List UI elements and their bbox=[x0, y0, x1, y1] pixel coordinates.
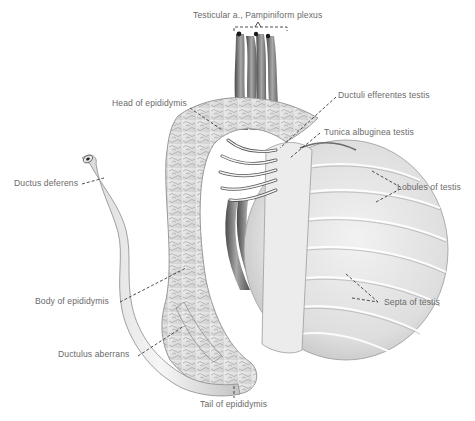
label-ductulus-aberrans: Ductulus aberrans bbox=[58, 349, 129, 359]
label-head-of-epididymis: Head of epididymis bbox=[112, 98, 187, 108]
label-tunica-albuginea: Tunica albuginea testis bbox=[324, 127, 414, 137]
testis-drawing bbox=[244, 140, 448, 360]
label-ductus-deferens: Ductus deferens bbox=[14, 178, 78, 188]
label-testicular-artery: Testicular a., Pampiniform plexus bbox=[193, 10, 322, 20]
label-body-of-epididymis: Body of epididymis bbox=[35, 296, 109, 306]
label-tail-of-epididymis: Tail of epididymis bbox=[200, 399, 267, 409]
leader-testicular-artery bbox=[234, 27, 287, 31]
label-septa-of-testis: Septa of testis bbox=[384, 297, 440, 307]
label-lobules-of-testis: Lobules of testis bbox=[397, 182, 461, 192]
label-ductuli-efferentes: Ductuli efferentes testis bbox=[338, 90, 430, 100]
